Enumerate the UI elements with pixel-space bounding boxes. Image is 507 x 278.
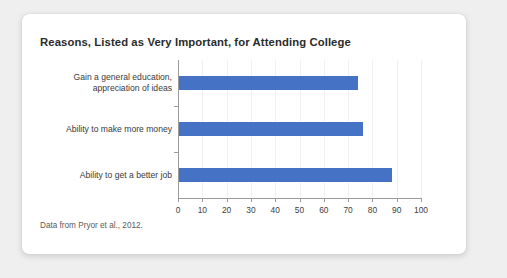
x-axis-tick-label: 50 — [288, 205, 312, 215]
y-axis-tick — [174, 152, 178, 153]
x-axis-tick — [421, 198, 422, 202]
gridline — [397, 60, 398, 198]
x-axis-tick-label: 90 — [385, 205, 409, 215]
x-axis-tick — [397, 198, 398, 202]
x-axis-tick-label: 0 — [166, 205, 190, 215]
x-axis-tick — [178, 198, 179, 202]
x-axis-tick — [324, 198, 325, 202]
page-background: Reasons, Listed as Very Important, for A… — [0, 0, 507, 278]
gridline — [421, 60, 422, 198]
x-axis-tick — [202, 198, 203, 202]
x-axis-tick — [372, 198, 373, 202]
x-axis-tick-label: 30 — [239, 205, 263, 215]
category-axis-labels: Gain a general education,appreciation of… — [22, 60, 172, 207]
bar — [179, 168, 392, 182]
x-axis-tick-label: 10 — [190, 205, 214, 215]
category-label: Ability to make more money — [22, 124, 172, 135]
x-axis-tick — [275, 198, 276, 202]
category-label-line: appreciation of ideas — [22, 83, 172, 94]
x-axis-tick — [300, 198, 301, 202]
category-label: Ability to get a better job — [22, 170, 172, 181]
category-label-line: Ability to make more money — [22, 124, 172, 135]
source-note: Data from Pryor et al., 2012. — [40, 221, 143, 230]
category-label-line: Ability to get a better job — [22, 170, 172, 181]
x-axis-tick-label: 80 — [360, 205, 384, 215]
bar — [179, 76, 358, 90]
x-axis-tick — [227, 198, 228, 202]
chart-card: Reasons, Listed as Very Important, for A… — [22, 14, 466, 254]
x-axis-tick-label: 40 — [263, 205, 287, 215]
plot-area: 0102030405060708090100 — [178, 60, 444, 207]
x-axis-tick-label: 100 — [409, 205, 433, 215]
category-label: Gain a general education,appreciation of… — [22, 72, 172, 94]
chart-title: Reasons, Listed as Very Important, for A… — [40, 36, 351, 48]
x-axis-tick — [348, 198, 349, 202]
bar — [179, 122, 363, 136]
x-axis-tick-label: 70 — [336, 205, 360, 215]
x-axis-tick-label: 60 — [312, 205, 336, 215]
x-axis-tick-label: 20 — [215, 205, 239, 215]
y-axis-tick — [174, 106, 178, 107]
x-axis-tick — [251, 198, 252, 202]
category-label-line: Gain a general education, — [22, 72, 172, 83]
